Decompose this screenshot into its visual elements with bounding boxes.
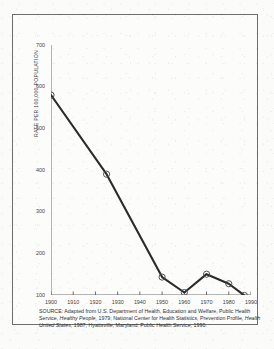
y-tick-label-400: 400 — [25, 167, 45, 173]
data-line — [51, 95, 244, 295]
source-label: SOURCE: — [39, 308, 63, 314]
x-tick-label-1910: 1910 — [62, 299, 84, 305]
x-tick-label-1980: 1980 — [218, 299, 240, 305]
x-tick-label-1960: 1960 — [173, 299, 195, 305]
x-tick-label-1900: 1900 — [40, 299, 62, 305]
x-tick-label-1930: 1930 — [107, 299, 129, 305]
x-tick-label-1940: 1940 — [129, 299, 151, 305]
y-tick-label-600: 600 — [25, 83, 45, 89]
y-tick-label-700: 700 — [25, 42, 45, 48]
y-tick-label-200: 200 — [25, 250, 45, 256]
x-axis-ticks — [51, 292, 251, 296]
plot-area: RATE PER 100,000 POPULATION 100200300400… — [51, 45, 251, 295]
source-line2-pre: Service, — [39, 315, 60, 321]
x-tick-label-1970: 1970 — [196, 299, 218, 305]
source-line1: Adapted from U.S. Department of Health, … — [63, 308, 250, 314]
y-tick-label-100: 100 — [25, 292, 45, 298]
data-point-markers — [51, 92, 247, 295]
figure-border-box: RATE PER 100,000 POPULATION 100200300400… — [12, 14, 258, 325]
source-line2-title: Healthy People, — [60, 315, 97, 321]
figure-container: RATE PER 100,000 POPULATION 100200300400… — [0, 0, 274, 349]
line-chart-svg — [51, 45, 251, 295]
source-note: SOURCE: Adapted from U.S. Department of … — [39, 308, 261, 329]
x-tick-label-1990: 1990 — [240, 299, 262, 305]
y-tick-label-500: 500 — [25, 125, 45, 131]
x-tick-label-1920: 1920 — [84, 299, 106, 305]
y-axis-title: RATE PER 100,000 POPULATION — [33, 7, 39, 137]
y-tick-label-300: 300 — [25, 208, 45, 214]
source-line3-post: 1987; Hyattsville, Maryland: Public Heal… — [72, 322, 207, 328]
x-tick-label-1950: 1950 — [151, 299, 173, 305]
source-line2-post: 1979; National Center for Health Statist… — [97, 315, 243, 321]
